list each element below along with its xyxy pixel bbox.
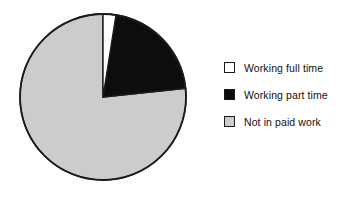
pie-plot-area	[0, 0, 210, 198]
legend-swatch-working-full-time	[224, 62, 235, 73]
pie-slice-working-part-time	[103, 15, 186, 97]
legend: Working full time Working part time Not …	[224, 60, 342, 129]
legend-item-working-full-time: Working full time	[224, 60, 342, 75]
legend-label-working-part-time: Working part time	[244, 89, 328, 101]
legend-swatch-working-part-time	[224, 89, 235, 100]
legend-item-not-in-paid-work: Not in paid work	[224, 114, 342, 129]
legend-label-not-in-paid-work: Not in paid work	[244, 116, 321, 128]
pie-svg	[0, 0, 210, 198]
legend-item-working-part-time: Working part time	[224, 87, 342, 102]
legend-label-working-full-time: Working full time	[244, 62, 323, 74]
pie-chart-figure: Working full time Working part time Not …	[0, 0, 342, 198]
legend-swatch-not-in-paid-work	[224, 116, 235, 127]
